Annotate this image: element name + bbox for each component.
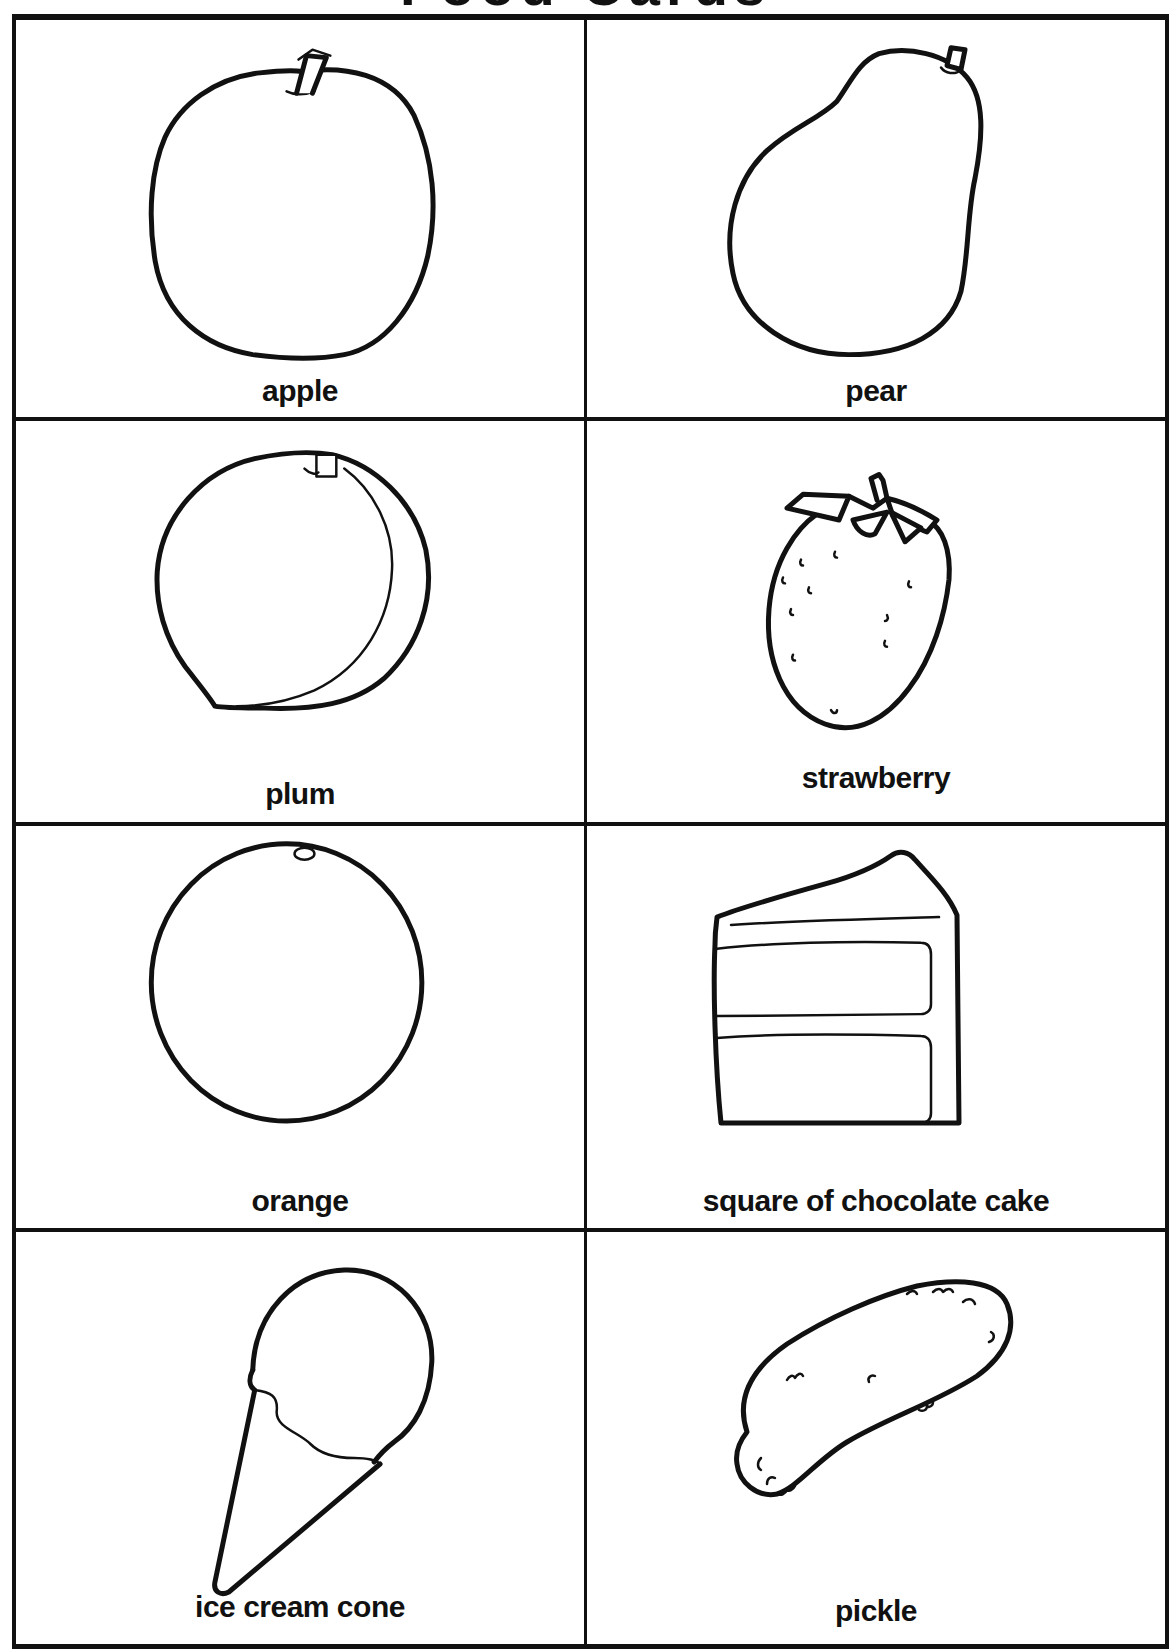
cake-slice-icon — [587, 826, 1165, 1228]
ice-cream-cone-icon — [16, 1232, 584, 1644]
card-label: pear — [587, 374, 1165, 408]
card-pear: pear — [587, 20, 1165, 421]
apple-icon — [16, 20, 584, 417]
pickle-icon — [587, 1232, 1165, 1644]
card-label: ice cream cone — [16, 1590, 584, 1624]
card-label: strawberry — [587, 761, 1165, 795]
card-label: plum — [16, 777, 584, 811]
card-orange: orange — [16, 826, 587, 1232]
food-card-sheet: apple pear plum — [12, 14, 1169, 1649]
card-pickle: pickle — [587, 1232, 1165, 1644]
pear-icon — [587, 20, 1165, 417]
card-apple: apple — [16, 20, 587, 421]
orange-icon — [16, 826, 584, 1228]
plum-icon — [16, 421, 584, 822]
card-plum: plum — [16, 421, 587, 826]
card-label: orange — [16, 1184, 584, 1218]
card-label: apple — [16, 374, 584, 408]
card-chocolate-cake: square of chocolate cake — [587, 826, 1165, 1232]
card-label: pickle — [587, 1594, 1165, 1628]
card-label: square of chocolate cake — [587, 1184, 1165, 1218]
card-strawberry: strawberry — [587, 421, 1165, 826]
card-ice-cream-cone: ice cream cone — [16, 1232, 587, 1644]
